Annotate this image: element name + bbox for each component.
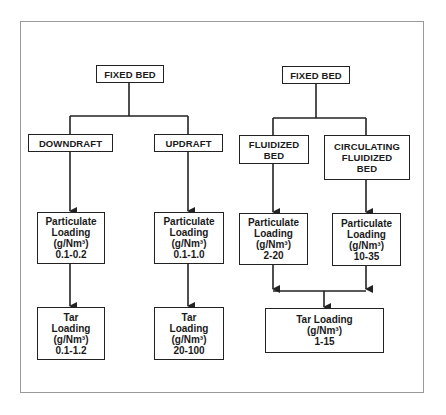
unit-label: (g/Nm³) bbox=[349, 240, 384, 251]
updraft-tar-box: Tar Loading (g/Nm³) 20-100 bbox=[154, 307, 224, 360]
fluidized-bed-box: FLUIDIZED BED bbox=[239, 135, 309, 164]
label-line: FLUIDIZED bbox=[249, 139, 300, 150]
particulate-label: Particulate bbox=[163, 216, 214, 227]
label-line: BED bbox=[357, 163, 377, 174]
unit-label: (g/Nm³) bbox=[307, 325, 342, 336]
value-label: 20-100 bbox=[173, 345, 204, 356]
loading-label: Loading bbox=[170, 227, 209, 238]
tar-label: Tar bbox=[64, 312, 79, 323]
loading-label: Loading bbox=[254, 228, 293, 239]
updraft-box: UPDRAFT bbox=[154, 134, 223, 152]
particulate-label: Particulate bbox=[248, 217, 299, 228]
downdraft-box: DOWNDRAFT bbox=[28, 134, 113, 152]
left-root-fixed-bed-box: FIXED BED bbox=[96, 65, 164, 83]
unit-label: (g/Nm³) bbox=[256, 239, 291, 250]
downdraft-tar-box: Tar Loading (g/Nm³) 0.1-1.2 bbox=[37, 307, 105, 360]
updraft-particulate-box: Particulate Loading (g/Nm³) 0.1-1.0 bbox=[154, 212, 224, 264]
tar-loading-label: Tar Loading bbox=[296, 314, 352, 325]
unit-label: (g/Nm³) bbox=[54, 238, 89, 249]
value-label: 10-35 bbox=[354, 251, 380, 262]
fluidized-bed-particulate-box: Particulate Loading (g/Nm³) 2-20 bbox=[239, 213, 308, 265]
label-line: FLUIDIZED bbox=[342, 152, 393, 163]
value-label: 0.1-1.2 bbox=[55, 345, 86, 356]
loading-label: Loading bbox=[170, 323, 209, 334]
tar-label: Tar bbox=[182, 312, 197, 323]
circulating-fluidized-bed-box: CIRCULATING FLUIDIZED BED bbox=[324, 135, 410, 180]
value-label: 1-15 bbox=[314, 336, 334, 347]
value-label: 0.1-0.2 bbox=[55, 249, 86, 260]
circulating-particulate-box: Particulate Loading (g/Nm³) 10-35 bbox=[332, 213, 401, 266]
unit-label: (g/Nm³) bbox=[54, 334, 89, 345]
downdraft-particulate-box: Particulate Loading (g/Nm³) 0.1-0.2 bbox=[37, 212, 105, 264]
updraft-label: UPDRAFT bbox=[165, 138, 211, 149]
unit-label: (g/Nm³) bbox=[172, 334, 207, 345]
right-root-label: FIXED BED bbox=[290, 70, 342, 81]
label-line: CIRCULATING bbox=[334, 141, 400, 152]
loading-label: Loading bbox=[52, 323, 91, 334]
right-root-fixed-bed-box: FIXED BED bbox=[282, 66, 350, 84]
unit-label: (g/Nm³) bbox=[172, 238, 207, 249]
combined-tar-box: Tar Loading (g/Nm³) 1-15 bbox=[265, 308, 384, 353]
value-label: 0.1-1.0 bbox=[173, 249, 204, 260]
loading-label: Loading bbox=[52, 227, 91, 238]
label-line: BED bbox=[264, 150, 284, 161]
loading-label: Loading bbox=[347, 229, 386, 240]
value-label: 2-20 bbox=[263, 250, 283, 261]
downdraft-label: DOWNDRAFT bbox=[39, 138, 102, 149]
particulate-label: Particulate bbox=[45, 216, 96, 227]
particulate-label: Particulate bbox=[341, 218, 392, 229]
left-root-label: FIXED BED bbox=[104, 69, 156, 80]
